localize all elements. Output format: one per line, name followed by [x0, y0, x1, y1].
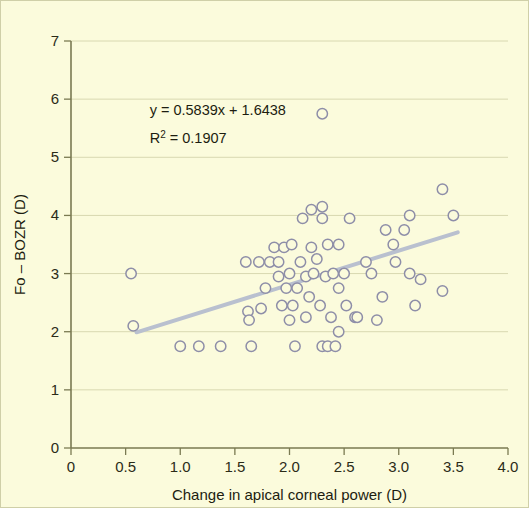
data-point: [410, 300, 420, 310]
data-point: [341, 300, 351, 310]
x-tick-label: 0.5: [115, 458, 136, 475]
data-point: [288, 300, 298, 310]
data-point: [306, 204, 316, 214]
data-point: [269, 242, 279, 252]
data-point: [308, 268, 318, 278]
data-point: [194, 341, 204, 351]
data-point: [399, 225, 409, 235]
data-point: [304, 292, 314, 302]
scatter-plot: 00.51.01.52.02.53.03.54.0 01234567 y = 0…: [1, 1, 529, 508]
data-point: [333, 327, 343, 337]
data-point: [317, 202, 327, 212]
data-point: [404, 268, 414, 278]
data-point: [344, 213, 354, 223]
data-point: [317, 213, 327, 223]
data-point: [246, 341, 256, 351]
data-point: [388, 239, 398, 249]
x-tick-label: 1.5: [224, 458, 245, 475]
data-point: [273, 271, 283, 281]
regression-equation-label: y = 0.5839x + 1.6438: [150, 102, 286, 118]
data-point: [297, 213, 307, 223]
data-point: [273, 257, 283, 267]
data-point: [244, 315, 254, 325]
x-tick-label: 1.0: [170, 458, 191, 475]
data-point: [361, 257, 371, 267]
x-tick-label: 3.5: [443, 458, 464, 475]
x-axis-title: Change in apical corneal power (D): [172, 486, 407, 503]
data-point: [254, 257, 264, 267]
data-point: [128, 321, 138, 331]
data-point: [333, 283, 343, 293]
data-point: [380, 225, 390, 235]
data-point: [328, 268, 338, 278]
data-point: [326, 312, 336, 322]
y-tick-label: 7: [51, 32, 59, 49]
y-tick-label: 5: [51, 148, 59, 165]
data-point: [333, 239, 343, 249]
y-tick-label: 6: [51, 90, 59, 107]
data-point: [241, 257, 251, 267]
data-point: [312, 254, 322, 264]
y-tick-label: 0: [51, 439, 59, 456]
x-tick-label: 3.0: [388, 458, 409, 475]
y-axis-ticks: [64, 41, 71, 448]
data-point: [317, 108, 327, 118]
data-point: [277, 300, 287, 310]
x-tick-label: 4.0: [498, 458, 519, 475]
data-point: [323, 239, 333, 249]
data-point: [301, 312, 311, 322]
data-point: [281, 283, 291, 293]
data-point: [175, 341, 185, 351]
data-point: [415, 274, 425, 284]
data-point: [437, 184, 447, 194]
data-point: [339, 268, 349, 278]
data-point: [306, 242, 316, 252]
x-tick-label: 2.5: [334, 458, 355, 475]
x-tick-label: 2.0: [279, 458, 300, 475]
y-axis-title: Fo – BOZR (D): [11, 194, 28, 295]
data-point: [126, 268, 136, 278]
y-tick-label: 4: [51, 206, 59, 223]
data-point: [260, 283, 270, 293]
x-tick-label: 0: [67, 458, 75, 475]
data-point: [290, 341, 300, 351]
gridlines: [71, 41, 508, 390]
data-point: [286, 239, 296, 249]
data-point: [284, 315, 294, 325]
data-point: [352, 312, 362, 322]
y-tick-label: 3: [51, 265, 59, 282]
data-point: [366, 268, 376, 278]
data-point: [295, 257, 305, 267]
data-point: [377, 292, 387, 302]
data-point: [448, 210, 458, 220]
data-point: [292, 283, 302, 293]
x-axis-tick-labels: 00.51.01.52.02.53.03.54.0: [67, 458, 519, 475]
x-axis-ticks: [71, 448, 508, 455]
data-point: [437, 286, 447, 296]
y-tick-label: 2: [51, 323, 59, 340]
data-point: [256, 303, 266, 313]
chart-figure: 00.51.01.52.02.53.03.54.0 01234567 y = 0…: [0, 0, 529, 508]
y-tick-label: 1: [51, 381, 59, 398]
data-point: [390, 257, 400, 267]
r-squared-label: R2 = 0.1907: [150, 129, 227, 146]
data-point: [284, 268, 294, 278]
y-axis-tick-labels: 01234567: [51, 32, 59, 456]
data-point: [315, 300, 325, 310]
data-point: [404, 210, 414, 220]
data-point: [330, 341, 340, 351]
data-point: [372, 315, 382, 325]
data-point: [215, 341, 225, 351]
